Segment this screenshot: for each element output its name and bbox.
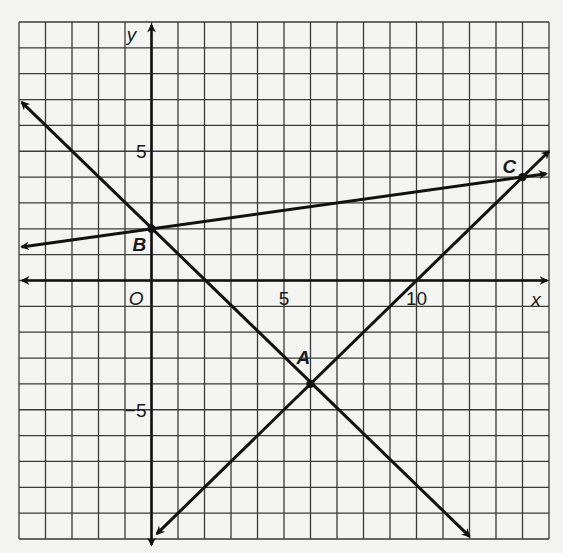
point-c	[518, 173, 526, 181]
coordinate-plane: ABC5105−5Oxy	[0, 0, 563, 553]
y-tick-label: −5	[125, 400, 147, 421]
point-label-a: A	[296, 347, 311, 368]
x-tick-label: 5	[279, 288, 290, 309]
origin-label: O	[129, 288, 144, 309]
point-a	[306, 380, 314, 388]
point-label-c: C	[503, 156, 517, 177]
y-tick-label: 5	[136, 141, 147, 162]
line-line-ba	[22, 102, 470, 536]
x-axis-label: x	[530, 289, 542, 310]
point-label-b: B	[133, 234, 147, 255]
line-line-ac	[157, 151, 549, 534]
y-axis-label: y	[125, 24, 138, 45]
point-b	[147, 225, 155, 233]
x-tick-label: 10	[406, 288, 427, 309]
